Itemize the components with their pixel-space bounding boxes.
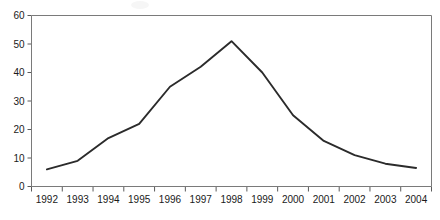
- scan-artifact: [131, 1, 149, 9]
- y-tick-label: 20: [13, 124, 25, 135]
- x-tick-label: 1993: [67, 194, 90, 205]
- y-tick-label: 10: [13, 153, 25, 164]
- x-tick-label: 1999: [251, 194, 274, 205]
- x-tick-label: 1997: [190, 194, 213, 205]
- x-tick-label: 1992: [36, 194, 59, 205]
- x-tick-label: 2002: [343, 194, 366, 205]
- x-tick-label: 1995: [128, 194, 151, 205]
- x-tick-label: 1994: [97, 194, 120, 205]
- y-tick-label: 40: [13, 67, 25, 78]
- y-tick-label: 50: [13, 39, 25, 50]
- x-tick-label: 2000: [282, 194, 305, 205]
- y-tick-label: 60: [13, 10, 25, 21]
- x-tick-label: 1998: [220, 194, 243, 205]
- chart-canvas: 0102030405060 19921993199419951996199719…: [0, 0, 440, 220]
- line-chart: 0102030405060 19921993199419951996199719…: [0, 0, 440, 220]
- x-tick-label: 2003: [374, 194, 397, 205]
- x-tick-label: 1996: [159, 194, 182, 205]
- x-tick-label: 2004: [405, 194, 428, 205]
- x-tick-label: 2001: [313, 194, 336, 205]
- y-tick-label: 0: [19, 181, 25, 192]
- y-tick-label: 30: [13, 96, 25, 107]
